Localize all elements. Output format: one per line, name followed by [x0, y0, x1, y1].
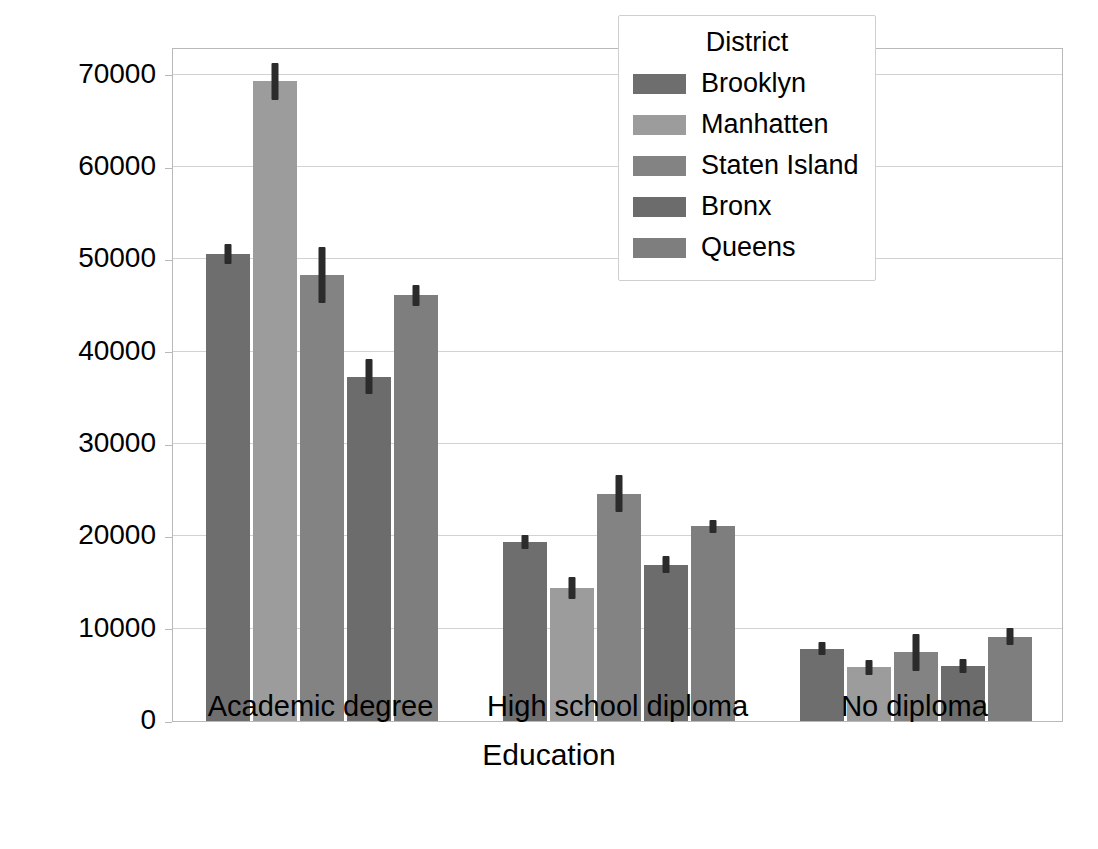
legend-swatch-icon [633, 74, 686, 94]
y-tick-label: 0 [140, 706, 156, 734]
y-tick-mark [165, 722, 172, 723]
error-bar [412, 285, 419, 305]
bar [394, 295, 438, 721]
legend-title: District [633, 25, 861, 59]
x-tick-label: No diploma [841, 690, 988, 723]
legend-item-label: Brooklyn [701, 70, 806, 97]
bar [253, 81, 297, 721]
bar [206, 254, 250, 721]
legend-item-label: Bronx [701, 193, 772, 220]
legend-swatch-icon [633, 115, 686, 135]
legend-item: Bronx [633, 186, 861, 227]
y-tick-mark [165, 629, 172, 630]
y-tick-mark [165, 537, 172, 538]
legend-item-label: Manhatten [701, 111, 829, 138]
legend-item: Manhatten [633, 104, 861, 145]
legend-item: Queens [633, 227, 861, 268]
y-tick-label: 50000 [78, 244, 156, 272]
y-tick-label: 10000 [78, 614, 156, 642]
bar [800, 649, 844, 721]
bar [597, 494, 641, 721]
error-bar [662, 556, 669, 573]
y-tick-label: 20000 [78, 521, 156, 549]
bar [300, 275, 344, 721]
y-tick-mark [165, 168, 172, 169]
legend: District BrooklynManhattenStaten IslandB… [618, 15, 876, 281]
legend-entries: BrooklynManhattenStaten IslandBronxQueen… [633, 63, 861, 268]
error-bar [271, 63, 278, 100]
y-tick-label: 40000 [78, 337, 156, 365]
error-bar [912, 634, 919, 671]
y-tick-label: 60000 [78, 152, 156, 180]
error-bar [568, 577, 575, 599]
figure: 010000200003000040000500006000070000 Sal… [0, 0, 1098, 849]
error-bar [521, 535, 528, 550]
error-bar [818, 642, 825, 655]
bar [347, 377, 391, 721]
x-axis-label: Education [482, 738, 615, 772]
y-tick-label: 30000 [78, 429, 156, 457]
legend-item: Brooklyn [633, 63, 861, 104]
error-bar [709, 520, 716, 533]
legend-item-label: Staten Island [701, 152, 859, 179]
legend-item: Staten Island [633, 145, 861, 186]
y-tick-mark [165, 352, 172, 353]
error-bar [1006, 628, 1013, 645]
y-tick-mark [165, 445, 172, 446]
error-bar [224, 244, 231, 264]
error-bar [615, 475, 622, 512]
x-tick-label: Academic degree [208, 690, 434, 723]
bar [988, 637, 1032, 721]
y-tick-mark [165, 260, 172, 261]
legend-swatch-icon [633, 238, 686, 258]
y-tick-mark [165, 75, 172, 76]
error-bar [318, 247, 325, 302]
legend-item-label: Queens [701, 234, 796, 261]
x-tick-label: High school diploma [487, 690, 748, 723]
legend-swatch-icon [633, 197, 686, 217]
error-bar [959, 659, 966, 674]
error-bar [865, 660, 872, 675]
error-bar [365, 359, 372, 394]
legend-swatch-icon [633, 156, 686, 176]
y-tick-label: 70000 [78, 60, 156, 88]
